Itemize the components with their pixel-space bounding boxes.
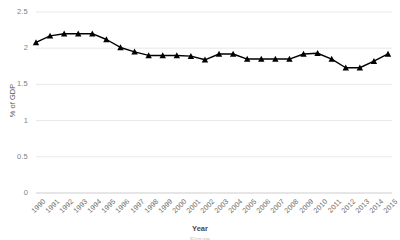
data-marker-group (33, 31, 391, 71)
data-point-marker (385, 51, 391, 57)
y-axis-title: % of GDP (8, 71, 17, 131)
y-tick-label: 2 (2, 43, 28, 52)
data-point-marker (371, 58, 377, 64)
series-line (36, 34, 388, 68)
data-point-marker (33, 39, 39, 45)
y-tick-label: 0.5 (2, 152, 28, 161)
data-series-group (36, 34, 388, 68)
figure-caption-fragment: Figure (0, 234, 400, 240)
y-tick-label: 0 (2, 188, 28, 197)
data-point-marker (117, 44, 123, 50)
x-axis-title: Year (0, 224, 400, 233)
y-tick-label: 2.5 (2, 7, 28, 16)
chart-container: 00.511.522.5 199019911992199319941995199… (0, 0, 400, 240)
gridlines-group (36, 12, 392, 193)
